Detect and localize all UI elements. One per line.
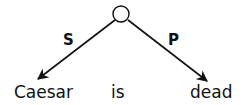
word-dead: dead <box>190 82 232 102</box>
dependency-diagram: S P Caesar is dead <box>0 0 244 105</box>
word-caesar: Caesar <box>14 82 73 102</box>
word-is: is <box>111 82 125 102</box>
edge-s-arrow <box>38 20 115 79</box>
edge-label-s: S <box>63 31 74 49</box>
edge-label-p: P <box>168 31 179 49</box>
root-node <box>113 6 129 22</box>
edge-p-arrow <box>128 20 207 81</box>
